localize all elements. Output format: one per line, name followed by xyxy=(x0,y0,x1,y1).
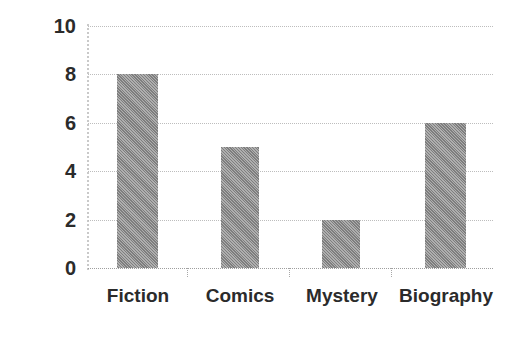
x-tick-1 xyxy=(187,268,188,277)
bar-fiction[interactable] xyxy=(117,74,158,268)
y-tick-label-10: 10 xyxy=(16,16,76,36)
bar-comics[interactable] xyxy=(221,147,259,268)
x-tick-label-mystery: Mystery xyxy=(306,286,378,307)
x-tick-label-biography: Biography xyxy=(399,286,493,307)
y-tick-label-8: 8 xyxy=(16,64,76,84)
bar-chart: 10 8 6 4 2 0 Fiction Comics Mystery Biog… xyxy=(0,0,519,337)
bar-mystery[interactable] xyxy=(322,220,360,268)
x-tick-label-fiction: Fiction xyxy=(107,286,169,307)
y-tick-label-0: 0 xyxy=(16,258,76,278)
y-tick-label-4: 4 xyxy=(16,161,76,181)
x-tick-3 xyxy=(391,268,392,277)
bar-biography[interactable] xyxy=(425,123,466,268)
plot-area xyxy=(88,26,493,268)
gridline-10 xyxy=(88,26,493,27)
y-axis-labels: 10 8 6 4 2 0 xyxy=(16,0,76,337)
y-tick-label-6: 6 xyxy=(16,113,76,133)
gridline-0-baseline xyxy=(88,268,493,269)
y-tick-label-2: 2 xyxy=(16,210,76,230)
x-axis-labels: Fiction Comics Mystery Biography xyxy=(88,286,493,320)
x-tick-2 xyxy=(289,268,290,277)
x-tick-label-comics: Comics xyxy=(206,286,275,307)
